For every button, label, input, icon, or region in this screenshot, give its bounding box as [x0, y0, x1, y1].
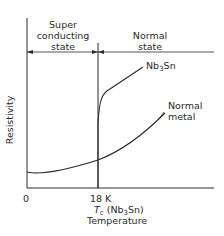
tc-paren: (Nb — [107, 204, 124, 215]
arrow-left-icon — [98, 50, 104, 54]
region-label-line: Normal — [118, 30, 182, 41]
region-label-line: conducting — [31, 30, 95, 41]
region-normal-label: Normal state — [118, 30, 182, 52]
tc-paren-end: Sn) — [128, 204, 144, 215]
x-tick-zero: 0 — [23, 193, 29, 204]
normal-metal-curve — [27, 113, 165, 173]
x-tick-tc: 18 K — [90, 193, 111, 204]
nb3sn-curve — [98, 67, 143, 188]
region-label-line: state — [118, 41, 182, 52]
region-superconducting-label: Super conducting state — [31, 19, 95, 52]
region-label-line: Super — [31, 19, 95, 30]
region-label-line: state — [31, 41, 95, 52]
nb3sn-base: Nb — [146, 60, 159, 71]
nb3sn-label: Nb3Sn — [146, 60, 176, 71]
y-axis-label: Resistivity — [4, 96, 15, 145]
normal-metal-label-line: metal — [168, 111, 202, 122]
normal-metal-label-line: Normal — [168, 100, 202, 111]
tc-label: Tc (Nb3Sn) — [94, 204, 144, 215]
normal-metal-leader — [158, 112, 164, 120]
normal-metal-label: Normal metal — [168, 100, 202, 122]
x-axis-label: Temperature — [87, 215, 147, 226]
nb3sn-rest: Sn — [164, 60, 176, 71]
